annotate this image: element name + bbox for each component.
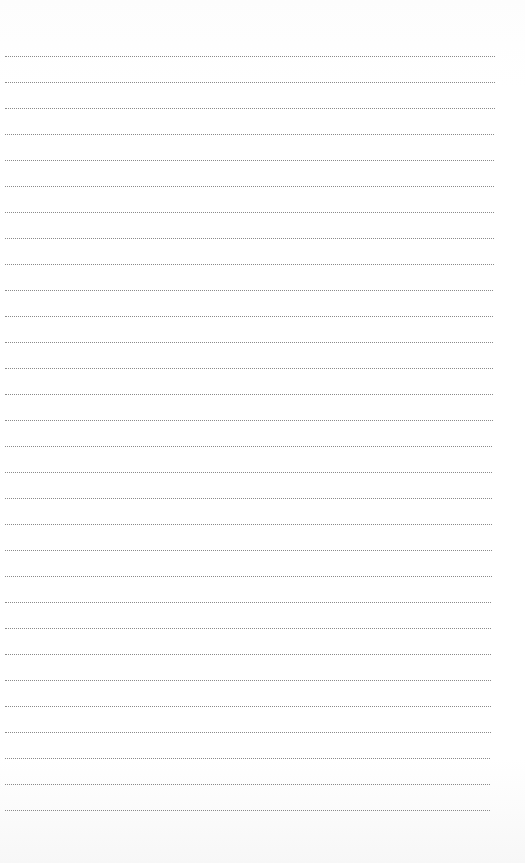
ruled-line — [5, 706, 491, 707]
ruled-line — [5, 758, 490, 759]
ruled-line — [5, 394, 493, 395]
ruled-line — [5, 524, 492, 525]
ruled-line — [5, 472, 492, 473]
ruled-line — [5, 108, 495, 109]
ruled-line — [5, 186, 494, 187]
ruled-line — [5, 134, 494, 135]
ruled-line — [5, 342, 493, 343]
ruled-line — [5, 290, 493, 291]
ruled-line — [5, 238, 494, 239]
ruled-line — [5, 576, 492, 577]
ruled-line — [5, 732, 491, 733]
ruled-line — [5, 654, 491, 655]
ruled-line — [5, 680, 491, 681]
ruled-line — [5, 264, 494, 265]
ruled-line — [5, 628, 491, 629]
lined-paper-page — [0, 0, 525, 863]
ruled-line — [5, 784, 490, 785]
ruled-line — [5, 368, 493, 369]
ruled-line — [5, 810, 490, 811]
ruled-line — [5, 498, 492, 499]
ruled-line — [5, 420, 493, 421]
ruled-line — [5, 56, 495, 57]
ruled-line — [5, 550, 492, 551]
ruled-line — [5, 160, 494, 161]
ruled-line — [5, 316, 493, 317]
ruled-line — [5, 212, 494, 213]
ruled-line — [5, 82, 495, 83]
ruled-line — [5, 602, 491, 603]
ruled-line — [5, 446, 492, 447]
